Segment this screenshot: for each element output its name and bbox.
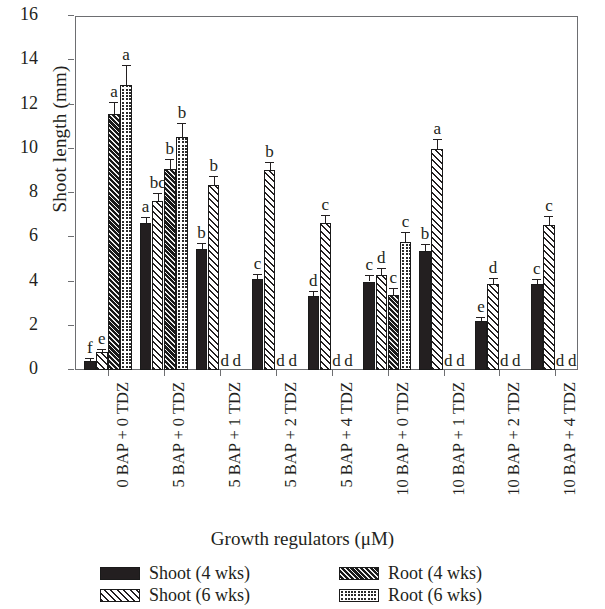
error-bar-cap — [109, 102, 118, 103]
significance-label: d — [479, 259, 507, 276]
bar — [388, 295, 400, 370]
significance-label: d — [367, 249, 395, 266]
legend-item: Root (6 wks) — [339, 584, 540, 606]
error-bar-cap — [389, 288, 398, 289]
y-axis-tick-label: 8 — [0, 181, 38, 202]
zero-value-label: d — [276, 352, 285, 369]
x-axis-tick-mark — [332, 370, 333, 376]
y-axis-tick-label: 2 — [0, 314, 38, 335]
bar — [96, 352, 108, 370]
bar — [419, 251, 431, 370]
bar — [487, 284, 499, 370]
error-bar-cap — [85, 358, 94, 359]
error-bar-cap — [309, 291, 318, 292]
error-bar-cap — [153, 193, 162, 194]
bar — [208, 185, 220, 370]
bar — [164, 169, 176, 370]
x-axis-tick-mark — [388, 370, 389, 376]
zero-value-label: d — [332, 352, 341, 369]
zero-value-label: d — [233, 352, 242, 369]
zero-value-label: d — [512, 352, 521, 369]
error-bar — [182, 123, 183, 136]
x-axis-tick-mark — [220, 370, 221, 376]
y-axis-tick-label: 4 — [0, 270, 38, 291]
bar — [152, 201, 164, 370]
legend-item: Shoot (6 wks) — [100, 584, 301, 606]
error-bar-cap — [165, 159, 174, 160]
y-axis-tick-mark — [68, 325, 74, 326]
significance-label: b — [168, 104, 196, 121]
error-bar-cap — [265, 162, 274, 163]
bar — [120, 85, 132, 370]
chart-legend: Shoot (4 wks)Root (4 wks)Shoot (6 wks)Ro… — [100, 562, 540, 606]
error-bar-cap — [544, 216, 553, 217]
legend-swatch — [339, 589, 379, 602]
error-bar-cap — [476, 317, 485, 318]
error-bar — [158, 193, 159, 201]
x-axis-tick-mark — [276, 370, 277, 376]
zero-value-label: d — [344, 352, 353, 369]
error-bar-cap — [365, 275, 374, 276]
error-bar — [114, 102, 115, 114]
bar — [176, 137, 188, 370]
legend-label: Shoot (4 wks) — [149, 563, 250, 584]
legend-label: Root (6 wks) — [388, 585, 482, 606]
y-axis-title: Shoot length (mm) — [49, 0, 71, 299]
error-bar-cap — [532, 279, 541, 280]
y-axis-tick-label: 12 — [0, 93, 38, 114]
y-axis-tick-mark — [68, 369, 74, 370]
significance-label: b — [200, 157, 228, 174]
bar — [431, 149, 443, 370]
x-axis-tick-label: 5 BAP + 1 TDZ — [225, 382, 245, 488]
x-axis-tick-mark — [555, 370, 556, 376]
bar — [264, 170, 276, 370]
error-bar-cap — [177, 123, 186, 124]
zero-value-label: d — [456, 352, 465, 369]
error-bar-cap — [122, 65, 131, 66]
x-axis-tick-label: 10 BAP + 2 TDZ — [504, 382, 524, 496]
significance-label: a — [112, 46, 140, 63]
error-bar-cap — [321, 215, 330, 216]
error-bar — [405, 232, 406, 242]
legend-swatch — [339, 567, 379, 580]
legend-label: Root (4 wks) — [388, 563, 482, 584]
significance-label: b — [256, 143, 284, 160]
significance-label: c — [311, 196, 339, 213]
legend-item: Shoot (4 wks) — [100, 562, 301, 584]
error-bar — [126, 65, 127, 85]
error-bar — [214, 176, 215, 185]
chart-figure: Shoot length (mm) 02468101214160 BAP + 0… — [0, 0, 605, 609]
legend-label: Shoot (6 wks) — [149, 585, 250, 606]
x-axis-tick-mark — [499, 370, 500, 376]
error-bar-cap — [489, 278, 498, 279]
error-bar — [270, 162, 271, 170]
x-axis-tick-mark — [444, 370, 445, 376]
x-axis-tick-label: 0 BAP + 0 TDZ — [113, 382, 133, 488]
y-axis-tick-mark — [68, 148, 74, 149]
significance-label: c — [535, 197, 563, 214]
bar — [475, 321, 487, 370]
y-axis-tick-mark — [68, 15, 74, 16]
legend-swatch — [100, 567, 140, 580]
bar — [400, 242, 412, 370]
error-bar-cap — [209, 176, 218, 177]
x-axis-tick-label: 5 BAP + 4 TDZ — [337, 382, 357, 488]
bar — [363, 282, 375, 371]
y-axis-tick-mark — [68, 104, 74, 105]
y-axis-tick-mark — [68, 281, 74, 282]
y-axis-tick-label: 14 — [0, 48, 38, 69]
x-axis-tick-mark — [108, 370, 109, 376]
x-axis-tick-label: 10 BAP + 0 TDZ — [393, 382, 413, 496]
significance-label: a — [423, 120, 451, 137]
bar — [252, 279, 264, 370]
zero-value-label: d — [288, 352, 297, 369]
error-bar-cap — [97, 349, 106, 350]
legend-swatch — [100, 589, 140, 602]
zero-value-label: d — [556, 352, 565, 369]
y-axis-tick-label: 16 — [0, 4, 38, 25]
bar — [376, 275, 388, 370]
bar — [531, 284, 543, 370]
x-axis-tick-mark — [164, 370, 165, 376]
zero-value-label: d — [220, 352, 229, 369]
y-axis-tick-mark — [68, 59, 74, 60]
